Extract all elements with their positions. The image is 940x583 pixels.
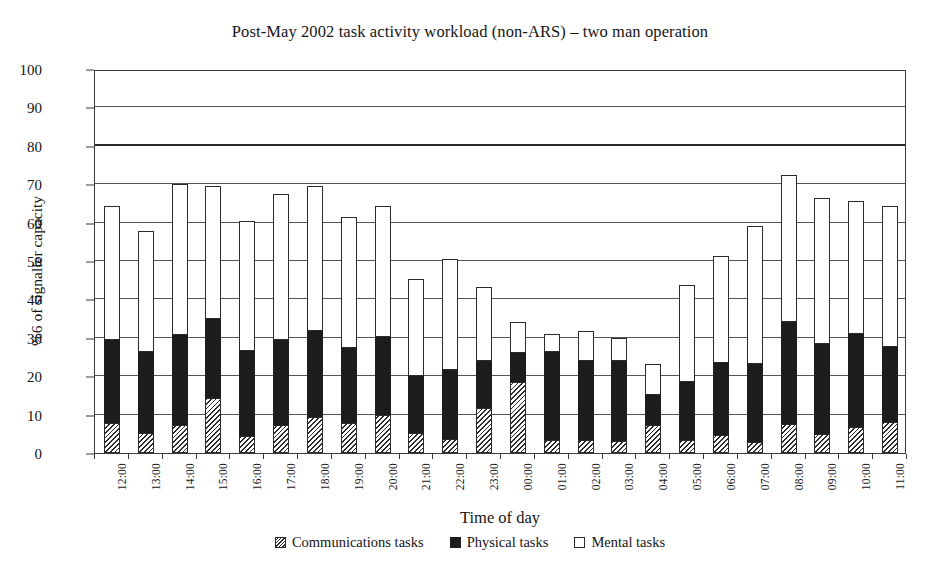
x-tick-label-16:00: 16:00 bbox=[251, 463, 263, 490]
y-tick-mark-0 bbox=[86, 454, 94, 455]
bar-group bbox=[747, 69, 763, 453]
bar-segment-communications bbox=[544, 440, 560, 453]
x-tick-mark bbox=[466, 454, 467, 459]
bar-segment-physical bbox=[848, 334, 864, 427]
bar-segment-mental bbox=[578, 331, 594, 361]
bar-group bbox=[544, 69, 560, 453]
bar-group bbox=[882, 69, 898, 453]
chart-legend: Communications tasksPhysical tasksMental… bbox=[0, 534, 940, 551]
x-tick-mark bbox=[162, 454, 163, 459]
x-tick-label-12:00: 12:00 bbox=[116, 463, 128, 490]
x-tick-label-00:00: 00:00 bbox=[522, 463, 534, 490]
y-axis: %6 of signaller capacity 010203040506070… bbox=[0, 0, 94, 583]
x-tick-mark bbox=[635, 454, 636, 459]
bar-segment-communications bbox=[442, 439, 458, 453]
x-tick-label-05:00: 05:00 bbox=[691, 463, 703, 490]
y-tick-mark-50 bbox=[86, 262, 94, 263]
x-tick-label-17:00: 17:00 bbox=[285, 463, 297, 490]
x-tick-label-02:00: 02:00 bbox=[590, 463, 602, 490]
bar-group bbox=[104, 69, 120, 453]
legend-item: Communications tasks bbox=[275, 534, 424, 551]
x-tick-mark bbox=[399, 454, 400, 459]
bar-segment-physical bbox=[510, 353, 526, 381]
bar-segment-communications bbox=[172, 425, 188, 453]
bar-segment-communications bbox=[882, 422, 898, 453]
y-tick-label-80: 80 bbox=[27, 139, 42, 154]
bar-segment-physical bbox=[138, 352, 154, 433]
bar-group bbox=[645, 69, 661, 453]
x-tick-mark bbox=[872, 454, 873, 459]
y-tick-label-10: 10 bbox=[27, 408, 42, 423]
x-tick-mark bbox=[602, 454, 603, 459]
bar-group bbox=[172, 69, 188, 453]
bar-group bbox=[408, 69, 424, 453]
x-tick-mark bbox=[297, 454, 298, 459]
bar-segment-mental bbox=[104, 206, 120, 340]
y-tick-label-50: 50 bbox=[27, 255, 42, 270]
x-tick-label-06:00: 06:00 bbox=[725, 463, 737, 490]
legend-label: Mental tasks bbox=[591, 534, 665, 551]
bar-segment-physical bbox=[408, 376, 424, 432]
legend-item: Physical tasks bbox=[450, 534, 549, 551]
bar-segment-mental bbox=[239, 221, 255, 352]
y-tick-label-70: 70 bbox=[27, 178, 42, 193]
x-tick-mark bbox=[263, 454, 264, 459]
y-tick-label-20: 20 bbox=[27, 370, 42, 385]
x-tick-label-01:00: 01:00 bbox=[556, 463, 568, 490]
bar-segment-physical bbox=[104, 340, 120, 423]
bar-group bbox=[848, 69, 864, 453]
bar-segment-physical bbox=[442, 370, 458, 439]
bar-group bbox=[679, 69, 695, 453]
bar-segment-physical bbox=[205, 319, 221, 398]
x-tick-mark bbox=[737, 454, 738, 459]
bar-segment-physical bbox=[172, 335, 188, 426]
x-tick-label-13:00: 13:00 bbox=[150, 463, 162, 490]
bar-segment-physical bbox=[814, 344, 830, 434]
bar-segment-communications bbox=[645, 425, 661, 453]
y-tick-mark-30 bbox=[86, 338, 94, 339]
y-tick-mark-40 bbox=[86, 300, 94, 301]
bar-segment-mental bbox=[172, 184, 188, 335]
bar-segment-communications bbox=[747, 442, 763, 453]
chart-figure: Post-May 2002 task activity workload (no… bbox=[0, 0, 940, 583]
bar-segment-communications bbox=[814, 434, 830, 453]
x-tick-label-07:00: 07:00 bbox=[759, 463, 771, 490]
x-axis-title: Time of day bbox=[94, 508, 906, 528]
x-tick-mark bbox=[805, 454, 806, 459]
bar-segment-mental bbox=[205, 186, 221, 319]
x-tick-label-19:00: 19:00 bbox=[353, 463, 365, 490]
bar-group bbox=[138, 69, 154, 453]
bar-group bbox=[442, 69, 458, 453]
y-tick-label-90: 90 bbox=[27, 101, 42, 116]
x-tick-label-09:00: 09:00 bbox=[826, 463, 838, 490]
x-tick-label-15:00: 15:00 bbox=[217, 463, 229, 490]
bar-segment-communications bbox=[781, 424, 797, 453]
y-tick-mark-80 bbox=[86, 146, 94, 147]
bar-segment-physical bbox=[307, 331, 323, 417]
x-tick-label-22:00: 22:00 bbox=[454, 463, 466, 490]
bar-group bbox=[578, 69, 594, 453]
bar-segment-physical bbox=[544, 352, 560, 440]
x-tick-label-23:00: 23:00 bbox=[488, 463, 500, 490]
bar-segment-physical bbox=[578, 361, 594, 440]
x-tick-mark bbox=[669, 454, 670, 459]
x-tick-mark bbox=[432, 454, 433, 459]
bar-segment-mental bbox=[814, 198, 830, 344]
bar-segment-mental bbox=[442, 259, 458, 370]
y-tick-label-30: 30 bbox=[27, 331, 42, 346]
bar-segment-mental bbox=[882, 206, 898, 347]
bar-segment-physical bbox=[713, 363, 729, 435]
bar-segment-physical bbox=[882, 347, 898, 422]
bar-segment-communications bbox=[341, 423, 357, 453]
x-tick-mark bbox=[229, 454, 230, 459]
bar-segment-mental bbox=[747, 226, 763, 363]
bar-segment-mental bbox=[848, 201, 864, 333]
bar-segment-physical bbox=[239, 351, 255, 435]
bar-segment-physical bbox=[781, 322, 797, 424]
empty-white-swatch bbox=[574, 537, 585, 548]
bar-group bbox=[713, 69, 729, 453]
x-tick-mark bbox=[196, 454, 197, 459]
bar-segment-physical bbox=[476, 361, 492, 408]
y-tick-label-100: 100 bbox=[20, 63, 43, 78]
x-tick-label-10:00: 10:00 bbox=[860, 463, 872, 490]
